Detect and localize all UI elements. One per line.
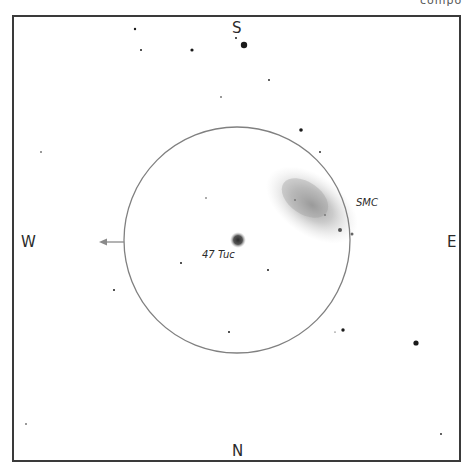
direction-west: W [21, 233, 36, 251]
label-smc: SMC [356, 197, 378, 208]
drift-arrow [99, 239, 124, 246]
globular-cluster-47-tuc [230, 232, 246, 248]
direction-east: E [447, 233, 456, 251]
smc-galaxy [252, 151, 372, 260]
direction-north: N [232, 442, 243, 460]
direction-south: S [232, 19, 242, 37]
stars [25, 28, 442, 435]
label-47-tuc: 47 Tuc [202, 249, 235, 260]
star-chart [0, 0, 475, 475]
